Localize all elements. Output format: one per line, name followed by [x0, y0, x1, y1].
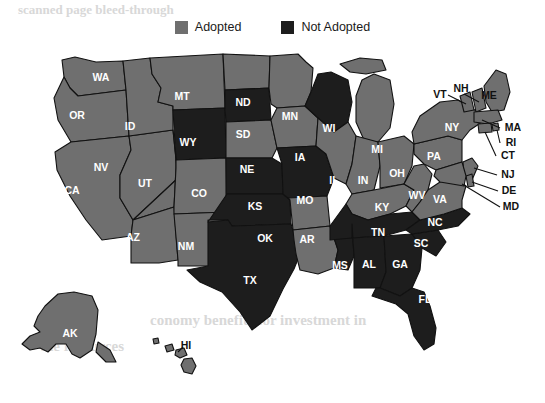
state-label-AR: AR: [299, 233, 315, 245]
state-label-AZ: AZ: [126, 231, 141, 243]
state-label-IA: IA: [295, 151, 306, 163]
state-label-MO: MO: [297, 194, 314, 206]
state-label-CA: CA: [64, 184, 80, 196]
state-label-MD: MD: [503, 200, 520, 212]
state-label-IN: IN: [358, 174, 369, 186]
state-label-MT: MT: [174, 90, 190, 102]
state-label-WY: WY: [180, 136, 197, 148]
state-label-GA: GA: [392, 258, 408, 270]
state-label-NE: NE: [240, 163, 255, 175]
state-label-AK: AK: [62, 327, 78, 339]
state-label-NJ: NJ: [501, 168, 515, 180]
legend-item-not-adopted: Not Adopted: [281, 20, 370, 34]
state-label-MA: MA: [505, 121, 522, 133]
state-label-NY: NY: [445, 121, 460, 133]
state-label-CT: CT: [501, 149, 516, 161]
state-label-UT: UT: [138, 177, 153, 189]
state-label-PA: PA: [427, 150, 441, 162]
state-label-TN: TN: [371, 226, 385, 238]
state-label-ND: ND: [235, 96, 251, 108]
state-label-IL: IL: [329, 174, 339, 186]
state-label-OH: OH: [389, 167, 405, 179]
state-WY[interactable]: [173, 108, 226, 160]
legend-label-adopted: Adopted: [195, 20, 242, 34]
leader-MD: [462, 184, 500, 207]
state-label-LA: LA: [306, 281, 320, 293]
leader-RI: [497, 130, 500, 143]
us-map-svg: WAORCANVIDMTWYUTAZCONMNDSDNEKSOKTXMNIAMO…: [0, 44, 545, 403]
state-label-WI: WI: [323, 122, 336, 134]
state-label-FL: FL: [419, 293, 432, 305]
state-label-MI: MI: [371, 143, 383, 155]
map-page: scanned page bleed-through conomy benefi…: [0, 0, 545, 403]
state-label-WV: WV: [409, 189, 426, 201]
state-label-SD: SD: [236, 128, 251, 140]
state-label-VA: VA: [433, 193, 447, 205]
state-label-SC: SC: [414, 237, 429, 249]
state-label-ME: ME: [481, 89, 497, 101]
state-label-OR: OR: [69, 109, 85, 121]
state-label-NC: NC: [427, 216, 443, 228]
state-label-VT: VT: [433, 88, 447, 100]
legend-swatch-not-adopted: [281, 21, 294, 34]
state-MA[interactable]: [474, 110, 502, 124]
leader-DE: [472, 182, 498, 191]
state-MN[interactable]: [269, 54, 313, 108]
legend-swatch-adopted: [175, 21, 188, 34]
leader-CT: [485, 132, 496, 156]
state-label-MN: MN: [282, 110, 298, 122]
legend-label-not-adopted: Not Adopted: [301, 20, 370, 34]
state-label-DE: DE: [502, 184, 517, 196]
state-NE[interactable]: [226, 120, 277, 158]
state-CT[interactable]: [478, 123, 492, 133]
state-label-NV: NV: [94, 161, 109, 173]
state-label-RI: RI: [506, 136, 517, 148]
states-layer: [22, 54, 510, 374]
state-label-NH: NH: [453, 82, 468, 94]
state-label-KS: KS: [248, 200, 263, 212]
state-label-MS: MS: [332, 259, 348, 271]
state-DE[interactable]: [466, 174, 474, 187]
ghost-text-0: scanned page bleed-through: [18, 2, 174, 18]
state-label-TX: TX: [243, 274, 256, 286]
state-ND[interactable]: [223, 54, 270, 90]
state-label-WA: WA: [93, 71, 110, 83]
state-label-AL: AL: [362, 258, 377, 270]
leader-NJ: [474, 168, 497, 175]
state-label-HI: HI: [181, 339, 192, 351]
us-map: WAORCANVIDMTWYUTAZCONMNDSDNEKSOKTXMNIAMO…: [0, 44, 545, 403]
state-label-OK: OK: [257, 232, 273, 244]
state-label-ID: ID: [125, 120, 136, 132]
state-label-CO: CO: [191, 187, 207, 199]
state-label-KY: KY: [375, 201, 390, 213]
state-label-NM: NM: [178, 240, 195, 252]
legend-item-adopted: Adopted: [175, 20, 242, 34]
map-legend: Adopted Not Adopted: [0, 20, 545, 34]
